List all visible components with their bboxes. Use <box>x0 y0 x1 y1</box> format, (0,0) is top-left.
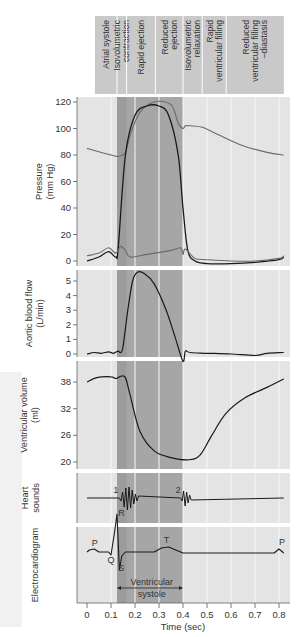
ecg-t-label: T <box>164 535 170 545</box>
ventricular-systole-label: Ventricular <box>131 577 174 587</box>
phase-label: relaxation <box>192 20 202 57</box>
isovolumetric-band-flow <box>117 270 127 357</box>
phase-label: ejection <box>169 20 179 50</box>
ecg-p2-label: P <box>279 537 285 547</box>
y-axis-label: (L/min) <box>35 299 45 328</box>
x-tick-label: 0.6 <box>224 609 237 620</box>
y-tick-label: 32 <box>60 403 71 414</box>
cardiac-cycle-diagram: Atrial systoleIsovolumetriccontractionRa… <box>0 0 303 637</box>
x-tick-label: 0.5 <box>200 609 213 620</box>
ventricular-systole-label: systole <box>138 589 166 599</box>
y-tick-label: 20 <box>60 456 71 467</box>
y-tick-label: 26 <box>60 429 71 440</box>
x-tick-label: 0.4 <box>176 609 189 620</box>
y-tick-label: 38 <box>60 376 71 387</box>
y-tick-label: 60 <box>60 176 71 187</box>
ecg-q-label: Q <box>107 555 114 565</box>
x-tick-label: 0.1 <box>104 609 117 620</box>
x-tick-label: 0.8 <box>272 609 285 620</box>
y-tick-label: 120 <box>55 96 71 107</box>
ecg-s-label: S <box>118 563 124 573</box>
y-tick-label: 20 <box>60 229 71 240</box>
y-axis-label: Heart <box>20 486 30 509</box>
phase-label: –diastasis <box>259 20 269 58</box>
y-tick-label: 5 <box>66 275 71 286</box>
y-axis-label: Aortic blood flow <box>24 279 34 347</box>
y-tick-label: 40 <box>60 202 71 213</box>
y-axis-label: (mm Hg) <box>45 164 55 200</box>
ecg-p-label: P <box>92 538 98 548</box>
ecg-r-label: R <box>118 508 125 518</box>
phase-label: ventricular filling <box>214 20 224 82</box>
x-tick-label: 0 <box>84 609 89 620</box>
y-tick-label: 1 <box>66 333 71 344</box>
y-tick-label: 4 <box>66 290 71 301</box>
phase-label: Atrial systole <box>101 20 111 69</box>
systole-band-pressure <box>117 97 183 266</box>
y-tick-label: 3 <box>66 304 71 315</box>
y-tick-label: 100 <box>55 123 71 134</box>
y-tick-label: 0 <box>66 348 71 359</box>
y-axis-label: (ml) <box>30 407 40 423</box>
systole-band-volume <box>117 361 183 469</box>
y-axis-label: Electrocardiogram <box>30 527 40 602</box>
x-tick-label: 0.2 <box>128 609 141 620</box>
y-axis-label: sounds <box>31 483 41 513</box>
y-axis-label: Pressure <box>34 163 44 200</box>
y-axis-label: Ventricular volume <box>19 377 29 453</box>
y-tick-label: 0 <box>66 255 71 266</box>
phase-header: Atrial systoleIsovolumetriccontractionRa… <box>95 16 284 94</box>
x-axis-label: Time (sec) <box>161 621 206 632</box>
heart-sound-2-label: 2 <box>176 485 181 495</box>
phase-bands <box>77 97 290 603</box>
y-tick-label: 80 <box>60 149 71 160</box>
heart-sound-1-label: 1 <box>113 485 118 495</box>
y-tick-label: 2 <box>66 319 71 330</box>
phase-label: Rapid ejection <box>136 20 146 75</box>
x-tick-label: 0.7 <box>248 609 261 620</box>
x-tick-label: 0.3 <box>152 609 165 620</box>
